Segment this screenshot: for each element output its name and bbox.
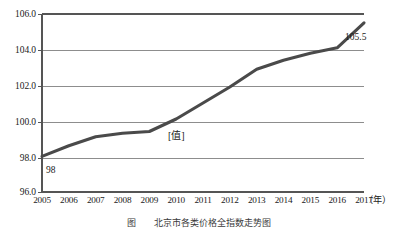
xtick-label-2012: 2012 bbox=[217, 195, 243, 206]
xtick-label-2005: 2005 bbox=[29, 195, 55, 206]
xtick-label-2010: 2010 bbox=[163, 195, 189, 206]
ytick-label-106: 106.0 bbox=[2, 9, 36, 19]
xtick-label-2011: 2011 bbox=[190, 195, 216, 206]
end-value-annotation: 105.5 bbox=[345, 32, 366, 42]
xtick-label-2007: 2007 bbox=[83, 195, 109, 206]
xtick-label-2014: 2014 bbox=[271, 195, 297, 206]
ytick-label-102: 102.0 bbox=[2, 81, 36, 91]
xtick-label-2009: 2009 bbox=[136, 195, 162, 206]
start-value-annotation: 98 bbox=[46, 165, 56, 175]
ytick-label-104: 104.0 bbox=[2, 45, 36, 55]
ytick-label-98: 98.0 bbox=[2, 153, 36, 163]
xtick-label-2006: 2006 bbox=[56, 195, 82, 206]
figure-caption: 图 北京市各类价格全指数走势图 bbox=[0, 218, 397, 229]
series-value-placeholder-annotation: [值] bbox=[168, 131, 185, 141]
xtick-label-2008: 2008 bbox=[110, 195, 136, 206]
xtick-label-2016: 2016 bbox=[324, 195, 350, 206]
xtick-label-2015: 2015 bbox=[297, 195, 323, 206]
ytick-label-100: 100.0 bbox=[2, 117, 36, 127]
xtick-label-2013: 2013 bbox=[244, 195, 270, 206]
y-axis-ticks bbox=[38, 14, 42, 192]
line-chart-figure: 106.0 104.0 102.0 100.0 98.0 96.0 2005 2… bbox=[0, 0, 397, 229]
x-axis-unit-label: （年） bbox=[364, 195, 391, 206]
